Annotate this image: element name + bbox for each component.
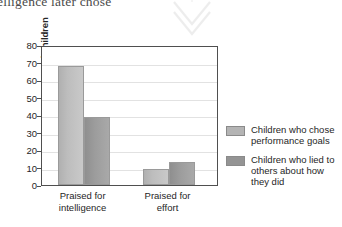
x-axis-label-group-0: Praised for intelligence [38,190,128,213]
y-tick-label-30: 30 [17,128,37,139]
x-axis-label-line1: Praised for [145,190,191,201]
legend-swatch-lied-to-others [226,156,245,166]
y-tick-label-70: 70 [17,58,37,69]
legend-label: Children who chose performance goals [251,124,334,147]
legend-label-line1: Children who lied to [251,154,334,165]
cut-off-body-text: elligence later chose [0,0,111,10]
legend-item: Children who chose performance goals [226,124,334,147]
legend-label-line3: they did [251,176,284,187]
legend-label-line2: performance goals [251,135,330,146]
y-tick-label-10: 10 [17,163,37,174]
y-tick-label-20: 20 [17,145,37,156]
double-chevron-down-icon [168,0,216,44]
x-axis-label-line2: effort [157,202,178,213]
x-axis-label-group-1: Praised for effort [123,190,213,213]
legend-label-line1: Children who chose [251,124,334,135]
y-tick-label-50: 50 [17,93,37,104]
legend-label: Children who lied to others about how th… [251,154,334,188]
bar-group-0-series-0 [58,66,84,185]
y-tick-label-40: 40 [17,110,37,121]
bar-group-1-series-0 [143,169,169,185]
legend-item: Children who lied to others about how th… [226,154,334,188]
chart-legend: Children who chose performance goals Chi… [226,124,334,194]
bar-group-1-series-1 [169,162,195,185]
x-axis-label-line1: Praised for [60,190,106,201]
bar-group-0-series-1 [84,117,110,185]
legend-label-line2: others about how [251,165,324,176]
y-tick-label-80: 80 [17,40,37,51]
y-tick-label-0: 0 [17,180,37,191]
x-axis-label-line2: intelligence [59,202,107,213]
y-tick-label-60: 60 [17,75,37,86]
legend-swatch-performance-goals [226,126,245,136]
chart-plot-area [41,46,218,186]
